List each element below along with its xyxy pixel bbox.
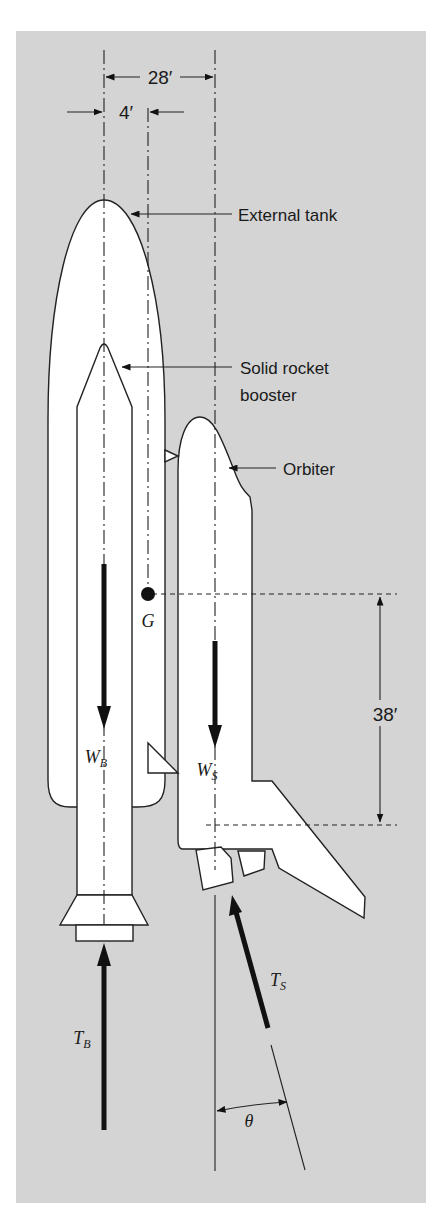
orbiter-label: Orbiter	[283, 460, 335, 479]
dim-4-label: 4′	[119, 102, 134, 123]
srb-nozzle-exit	[76, 925, 133, 941]
space-shuttle-free-body-diagram: 28′ 4′ External tank Solid rocket booste…	[0, 0, 437, 1220]
center-of-gravity-dot	[141, 587, 155, 601]
external-tank-label: External tank	[238, 206, 338, 225]
srb-label-line1: Solid rocket	[240, 359, 329, 378]
theta-label: θ	[245, 1111, 254, 1131]
g-label: G	[142, 611, 155, 631]
dim-28-label: 28′	[148, 67, 173, 88]
dim-38-label: 38′	[373, 704, 398, 725]
srb-label-line2: booster	[240, 386, 297, 405]
